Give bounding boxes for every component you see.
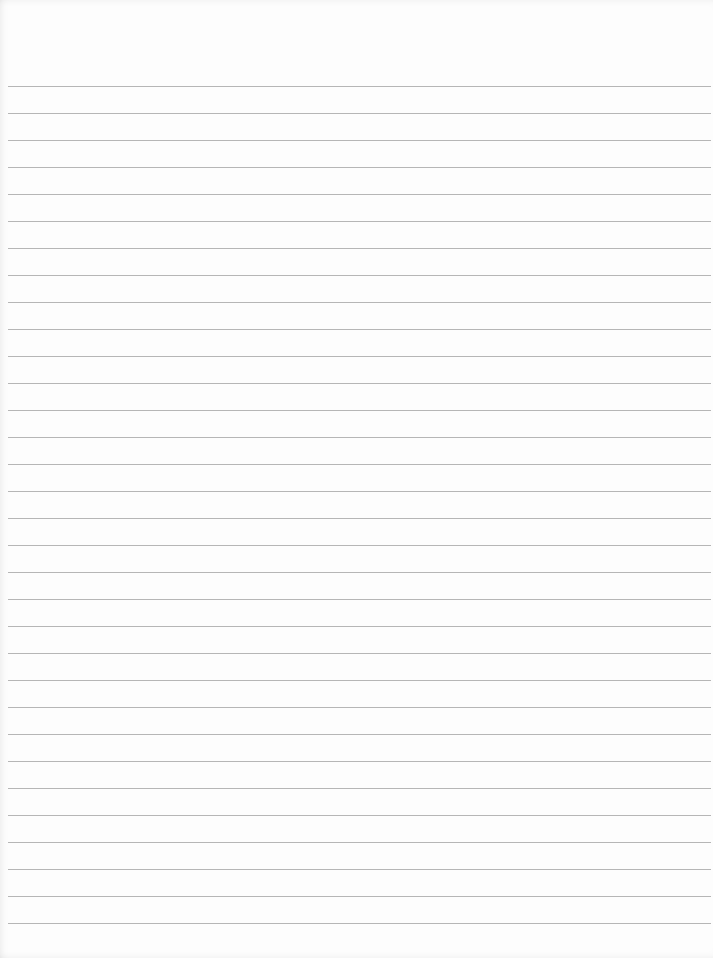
ruled-line [8, 167, 711, 168]
ruled-line [8, 491, 711, 492]
ruled-line [8, 221, 711, 222]
ruled-line [8, 275, 711, 276]
ruled-line [8, 842, 711, 843]
ruled-line [8, 815, 711, 816]
ruled-line [8, 194, 711, 195]
ruled-line [8, 896, 711, 897]
ruled-line [8, 680, 711, 681]
ruled-line [8, 140, 711, 141]
ruled-line [8, 329, 711, 330]
ruled-line [8, 923, 711, 924]
ruled-line [8, 302, 711, 303]
ruled-line [8, 86, 711, 87]
ruled-line [8, 383, 711, 384]
ruled-line [8, 653, 711, 654]
ruled-line [8, 761, 711, 762]
ruled-line [8, 707, 711, 708]
ruled-line [8, 518, 711, 519]
ruled-line [8, 869, 711, 870]
ruled-line [8, 410, 711, 411]
ruled-line [8, 572, 711, 573]
ruled-line [8, 788, 711, 789]
ruled-line [8, 356, 711, 357]
ruled-line [8, 113, 711, 114]
ruled-line [8, 545, 711, 546]
ruled-line [8, 734, 711, 735]
ruled-line [8, 599, 711, 600]
lined-paper-sheet [0, 0, 713, 958]
ruled-line [8, 437, 711, 438]
ruled-line [8, 464, 711, 465]
ruled-line [8, 248, 711, 249]
ruled-line [8, 626, 711, 627]
